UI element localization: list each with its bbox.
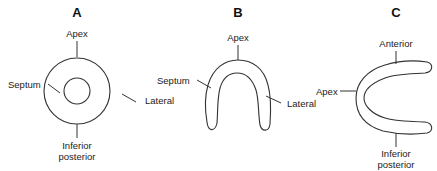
- panel-a-outer-circle: [44, 58, 110, 124]
- panel-a-septum-leader: [48, 84, 60, 93]
- panel-c-letter: C: [391, 5, 401, 20]
- panel-a-label-apex: Apex: [66, 28, 88, 39]
- panel-c-label-apex: Apex: [316, 86, 338, 97]
- panel-a-lateral-leader: [122, 94, 136, 102]
- panel-c-c-shape: [356, 61, 432, 134]
- panel-a-label-septum: Septum: [8, 79, 41, 90]
- panel-a-label-inferior: Inferior: [62, 140, 92, 151]
- cardiac-views-diagram: A Apex Septum Lateral Inferior posterior…: [0, 0, 437, 171]
- panel-a-label-lateral: Lateral: [145, 95, 174, 106]
- panel-a-label-posterior: posterior: [59, 151, 96, 162]
- panel-c-label-posterior: posterior: [378, 159, 415, 170]
- panel-b-label-apex: Apex: [227, 32, 249, 43]
- panel-b-lateral-leader: [266, 96, 281, 103]
- panel-c-label-anterior: Anterior: [379, 38, 412, 49]
- panel-a-inner-circle: [64, 78, 90, 104]
- panel-c: C Anterior Apex Inferior posterior: [316, 5, 432, 170]
- panel-b: B Apex Septum Lateral: [157, 5, 316, 130]
- panel-b-letter: B: [233, 5, 242, 20]
- panel-b-label-lateral: Lateral: [287, 98, 316, 109]
- panel-b-label-septum: Septum: [157, 75, 190, 86]
- panel-c-label-inferior: Inferior: [381, 148, 411, 159]
- panel-a: A Apex Septum Lateral Inferior posterior: [8, 5, 174, 162]
- panel-b-inverted-u-shape: [206, 60, 271, 130]
- panel-a-letter: A: [72, 5, 82, 20]
